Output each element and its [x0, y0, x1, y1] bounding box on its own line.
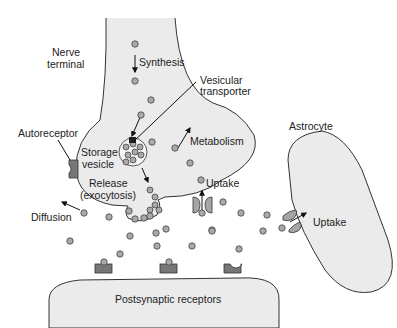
label-release: Release: [89, 177, 128, 189]
postsynaptic-receptor-3: [224, 264, 242, 273]
label-storage: Storage: [81, 146, 118, 158]
label-uptake-astrocyte: Uptake: [313, 216, 346, 228]
label-metabolism: Metabolism: [190, 135, 244, 147]
label-autoreceptor: Autoreceptor: [18, 127, 79, 139]
label-astrocyte: Astrocyte: [289, 120, 333, 132]
label-diffusion: Diffusion: [31, 211, 72, 223]
label-transporter: transporter: [200, 85, 251, 97]
astrocyte-cell: [288, 131, 392, 293]
autoreceptor: [69, 160, 78, 178]
label-postsynaptic: Postsynaptic receptors: [115, 293, 221, 305]
label-nerve: Nerve: [52, 46, 80, 58]
label-synthesis: Synthesis: [139, 56, 185, 68]
label-terminal: terminal: [47, 58, 84, 70]
label-vesicle: vesicle: [82, 158, 114, 170]
postsynaptic-receptor-2: [160, 259, 177, 273]
label-exocytosis: (exocytosis): [80, 189, 136, 201]
postsynaptic-receptor-1: [95, 259, 112, 273]
label-uptake-terminal: Uptake: [206, 177, 239, 189]
synapse-diagram: Nerve terminal Synthesis Vesicular trans…: [0, 0, 397, 328]
